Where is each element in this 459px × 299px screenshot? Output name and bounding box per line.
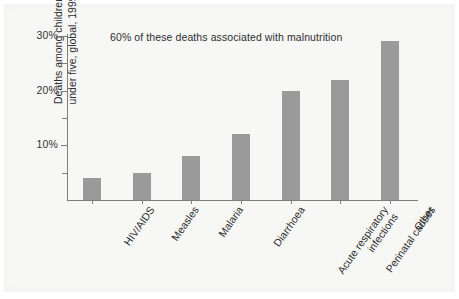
y-tick-label: 30%: [16, 29, 58, 41]
y-tick-label: 10%: [16, 138, 58, 150]
x-axis-line: [67, 200, 418, 201]
bar: [331, 80, 349, 200]
x-tick: [142, 200, 143, 204]
x-tick: [340, 200, 341, 204]
x-tick: [390, 200, 391, 204]
bar: [381, 41, 399, 200]
y-tick-label-text: 10%: [18, 138, 58, 150]
bar: [232, 134, 250, 200]
bar: [133, 173, 151, 200]
y-tick-label-text: 30%: [18, 29, 58, 41]
plot-area: [67, 36, 415, 200]
x-tick: [241, 200, 242, 204]
x-tick: [92, 200, 93, 204]
y-tick-label: 20%: [16, 84, 58, 96]
y-tick-label-text: 20%: [18, 84, 58, 96]
chart-figure: Deaths among children under five, global…: [0, 0, 459, 299]
bar: [182, 156, 200, 200]
bar: [282, 91, 300, 200]
x-tick: [291, 200, 292, 204]
bar: [83, 178, 101, 200]
